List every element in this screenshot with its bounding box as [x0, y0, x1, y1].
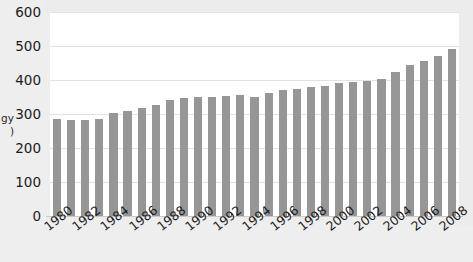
bar	[67, 120, 75, 216]
bar	[236, 95, 244, 216]
x-tick-label: 1980	[41, 202, 75, 233]
bar-series	[50, 12, 459, 216]
y-tick-label: 500	[0, 38, 41, 54]
bar	[363, 81, 371, 216]
bar	[208, 97, 216, 216]
bar	[265, 93, 273, 216]
figure-right-margin	[459, 0, 473, 226]
x-axis-tick-labels: 1980198219841986198819901992199419961998…	[0, 216, 473, 262]
bar	[138, 108, 146, 216]
bar	[152, 105, 160, 216]
bar	[349, 82, 357, 216]
bar	[180, 98, 188, 216]
bar	[293, 89, 301, 217]
bar	[406, 65, 414, 216]
plot-area	[50, 12, 459, 216]
bar	[448, 49, 456, 216]
bar	[391, 72, 399, 217]
bar	[81, 120, 89, 216]
figure-top-margin	[44, 0, 473, 12]
bar	[279, 90, 287, 216]
bar	[194, 97, 202, 216]
bar	[307, 87, 315, 216]
bar	[377, 79, 385, 216]
y-tick-label: 600	[0, 4, 41, 20]
bar	[95, 119, 103, 216]
bar	[123, 111, 131, 216]
bar	[434, 56, 442, 216]
bar	[321, 86, 329, 216]
y-tick-label: 100	[0, 174, 41, 190]
bar	[335, 83, 343, 216]
bar	[250, 97, 258, 216]
bar	[53, 119, 61, 216]
y-tick-label: 400	[0, 72, 41, 88]
bar	[420, 61, 428, 216]
bar	[166, 100, 174, 216]
chart-figure: gy ) 0100200300400500600 198019821984198…	[0, 0, 473, 262]
bar	[109, 113, 117, 216]
y-tick-label: 300	[0, 106, 41, 122]
bar	[222, 96, 230, 216]
y-tick-label: 200	[0, 140, 41, 156]
